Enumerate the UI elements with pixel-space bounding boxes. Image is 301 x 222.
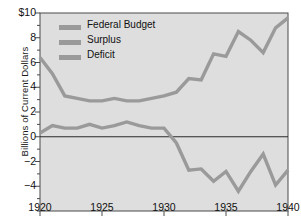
y-tick-label: 4: [2, 80, 36, 92]
chart-figure: Billions of Current Dollars $1086420−2−4…: [0, 0, 301, 222]
y-tick-label: $10: [2, 6, 36, 18]
legend-label: Deficit: [87, 49, 115, 60]
legend-swatch: [59, 40, 81, 45]
y-tick-label: 0: [2, 130, 36, 142]
y-axis-title: Billions of Current Dollars: [19, 32, 30, 172]
legend-swatch: [59, 25, 81, 30]
y-tick-label: −2: [2, 155, 36, 167]
legend-label: Federal Budget: [87, 19, 155, 30]
y-tick-label: −4: [2, 179, 36, 191]
y-tick-label: 6: [2, 56, 36, 68]
y-tick-label: 8: [2, 31, 36, 43]
legend-swatch: [59, 55, 81, 60]
x-tick-label: 1940: [266, 201, 301, 213]
legend-label: Surplus: [87, 34, 121, 45]
chart-canvas: [0, 0, 301, 222]
x-tick-label: 1925: [80, 201, 124, 213]
y-tick-label: 2: [2, 105, 36, 117]
x-tick-label: 1930: [142, 201, 186, 213]
x-tick-label: 1920: [18, 201, 62, 213]
x-tick-label: 1935: [204, 201, 248, 213]
